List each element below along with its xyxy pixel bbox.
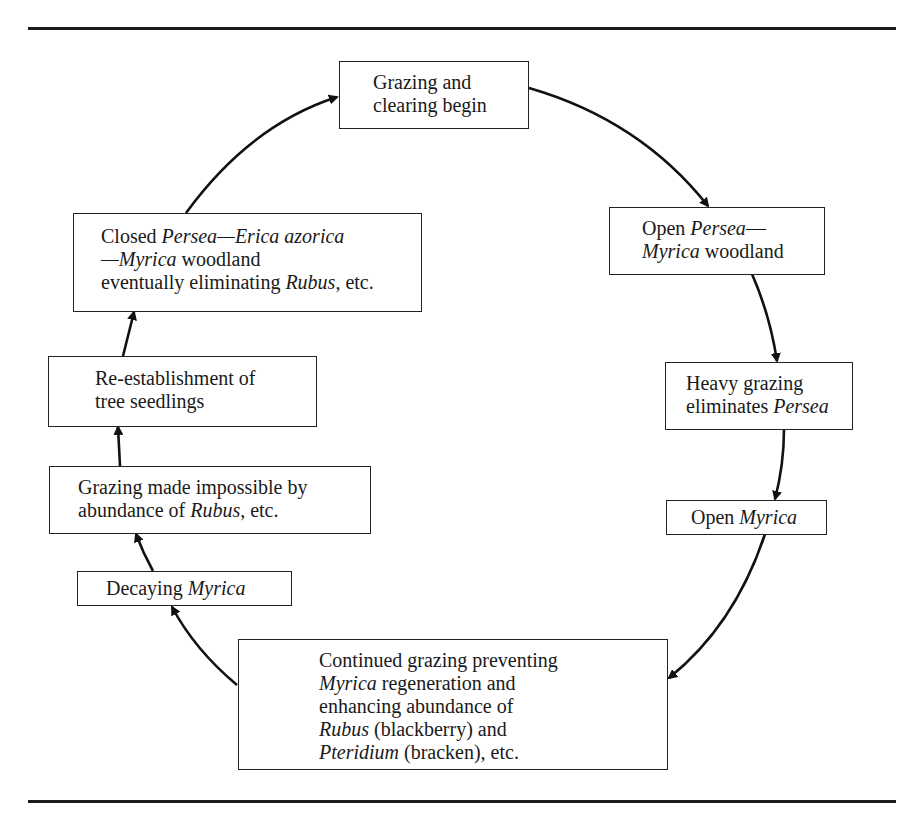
node-label: Re-establishment oftree seedlings <box>95 367 256 413</box>
taxon-name: Rubus <box>285 271 335 293</box>
node-closed-woodland: Closed Persea—Erica azorica—Myrica woodl… <box>73 213 422 312</box>
taxon-name: Myrica <box>642 240 700 262</box>
node-label-line: eliminates Persea <box>686 395 829 418</box>
edge-n7-n8 <box>118 427 120 466</box>
node-label-line: Rubus (blackberry) and <box>319 718 558 741</box>
node-label: Continued grazing preventingMyrica regen… <box>319 649 558 764</box>
node-label: Decaying Myrica <box>106 577 245 600</box>
node-label-line: Grazing made impossible by <box>78 476 307 499</box>
label-text: Closed <box>101 225 162 247</box>
node-continued-grazing: Continued grazing preventingMyrica regen… <box>238 639 668 770</box>
node-label: Heavy grazingeliminates Persea <box>686 372 829 418</box>
taxon-name: Rubus <box>319 718 369 740</box>
edge-n3-n4 <box>775 429 784 499</box>
taxon-name: Rubus <box>190 499 240 521</box>
taxon-name: Persea—Erica azorica <box>162 225 345 247</box>
node-label-line: Myrica woodland <box>642 240 784 263</box>
node-grazing-clearing-begin: Grazing andclearing begin <box>339 61 529 129</box>
label-text: Open <box>642 217 690 239</box>
node-label: Closed Persea—Erica azorica—Myrica woodl… <box>101 225 374 294</box>
node-label: Grazing andclearing begin <box>373 71 487 117</box>
label-text: , etc. <box>335 271 373 293</box>
node-label-line: Heavy grazing <box>686 372 829 395</box>
label-text: Grazing and <box>373 71 471 93</box>
edge-n4-n5 <box>669 534 765 678</box>
edge-n2-n3 <box>752 274 777 361</box>
node-label: Open Myrica <box>691 506 797 529</box>
label-text: abundance of <box>78 499 190 521</box>
label-text: eventually eliminating <box>101 271 285 293</box>
node-open-myrica: Open Myrica <box>666 500 827 535</box>
node-label-line: tree seedlings <box>95 390 256 413</box>
taxon-name: Myrica <box>739 506 797 528</box>
label-text: enhancing abundance of <box>319 695 513 717</box>
label-text: — <box>746 217 766 239</box>
node-label-line: Continued grazing preventing <box>319 649 558 672</box>
node-label-line: enhancing abundance of <box>319 695 558 718</box>
node-heavy-grazing-eliminates-persea: Heavy grazingeliminates Persea <box>665 362 853 430</box>
node-label-line: Decaying Myrica <box>106 577 245 600</box>
node-grazing-made-impossible: Grazing made impossible byabundance of R… <box>49 466 371 534</box>
edge-n5-n6 <box>172 607 237 685</box>
taxon-name: Persea <box>773 395 829 417</box>
node-label-line: Open Persea— <box>642 217 784 240</box>
label-text: tree seedlings <box>95 390 204 412</box>
taxon-name: Persea <box>690 217 746 239</box>
label-text: eliminates <box>686 395 773 417</box>
taxon-name: Myrica <box>319 672 377 694</box>
node-label-line: Re-establishment of <box>95 367 256 390</box>
taxon-name: Pteridium <box>319 741 399 763</box>
label-text: woodland <box>700 240 784 262</box>
label-text: , etc. <box>240 499 278 521</box>
label-text: Decaying <box>106 577 188 599</box>
edge-n8-n9 <box>123 312 134 356</box>
label-text: regeneration and <box>377 672 516 694</box>
node-label-line: abundance of Rubus, etc. <box>78 499 307 522</box>
label-text: Grazing made impossible by <box>78 476 307 498</box>
node-open-persea-myrica-woodland: Open Persea—Myrica woodland <box>609 207 825 275</box>
label-text: Continued grazing preventing <box>319 649 558 671</box>
label-text: woodland <box>177 248 261 270</box>
label-text: Open <box>691 506 739 528</box>
label-text: Re-establishment of <box>95 367 256 389</box>
taxon-name: —Myrica <box>101 248 177 270</box>
node-label-line: eventually eliminating Rubus, etc. <box>101 271 374 294</box>
edge-n1-n2 <box>529 88 708 206</box>
node-label-line: clearing begin <box>373 94 487 117</box>
label-text: clearing begin <box>373 94 487 116</box>
bottom-rule <box>28 800 896 803</box>
node-label-line: Grazing and <box>373 71 487 94</box>
edge-n6-n7 <box>136 534 153 571</box>
label-text: (bracken), etc. <box>399 741 519 763</box>
node-re-establishment-tree-seedlings: Re-establishment oftree seedlings <box>48 356 317 427</box>
node-label-line: Pteridium (bracken), etc. <box>319 741 558 764</box>
node-label: Grazing made impossible byabundance of R… <box>78 476 307 522</box>
node-label: Open Persea—Myrica woodland <box>642 217 784 263</box>
node-label-line: Open Myrica <box>691 506 797 529</box>
taxon-name: Myrica <box>188 577 246 599</box>
label-text: Heavy grazing <box>686 372 803 394</box>
node-label-line: Myrica regeneration and <box>319 672 558 695</box>
node-decaying-myrica: Decaying Myrica <box>77 571 292 606</box>
edge-n9-n1 <box>186 97 337 213</box>
label-text: (blackberry) and <box>369 718 507 740</box>
node-label-line: Closed Persea—Erica azorica <box>101 225 374 248</box>
node-label-line: —Myrica woodland <box>101 248 374 271</box>
